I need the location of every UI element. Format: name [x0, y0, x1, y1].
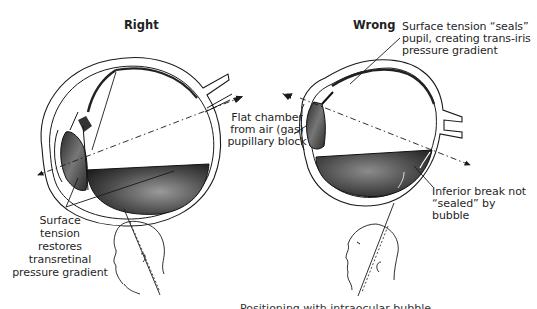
panel-title-wrong: Wrong [353, 18, 395, 32]
head-face-up [346, 203, 398, 296]
label-flat-chamber: Flat chamber from air (gas) pupillary bl… [222, 112, 312, 148]
panel-title-right: Right [124, 18, 159, 32]
label-inferior-break: Inferior break not “sealed” by bubble [432, 186, 526, 222]
label-seals-pupil: Surface tension “seals” pupil, creating … [402, 21, 531, 57]
diagram-stage: Right Wrong Surface tension “seals” pupi… [0, 0, 537, 309]
figure-caption: Positioning with intraocular bubble [240, 302, 431, 309]
eye-right-position [41, 58, 232, 227]
head-face-down [114, 209, 165, 295]
eye-wrong-position [300, 60, 463, 206]
label-surface-tension-restores: Surface tension restores transretinal pr… [8, 214, 112, 279]
